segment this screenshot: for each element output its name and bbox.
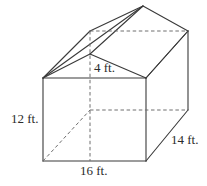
geometry-figure: 12 ft. 16 ft. 14 ft. 4 ft. [0,0,207,186]
roof-apex-back-left-edge [90,6,143,31]
roof-front-left-slope [43,54,90,78]
roof-apex-to-back-right [143,6,188,31]
width-dimension-label: 16 ft. [80,164,107,177]
solid-drawing [0,0,207,186]
roof-left-eave-to-apex [43,6,143,78]
depth-dimension-label: 14 ft. [171,133,198,146]
roof-ridge-line [90,6,143,54]
roof-back-left-slope [43,31,90,78]
hidden-floor-diagonal [43,110,90,161]
prism-hidden-edges [43,31,188,161]
height-dimension-label: 12 ft. [11,112,38,125]
roof-right-eave-edge [146,31,188,78]
roof-height-dimension-label: 4 ft. [94,61,115,74]
